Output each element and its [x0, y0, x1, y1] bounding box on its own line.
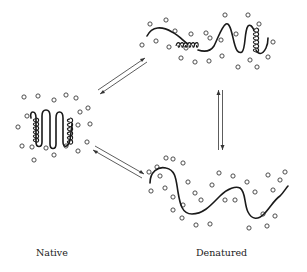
solvent-molecule	[186, 180, 190, 184]
solvent-molecule	[266, 173, 270, 177]
solvent-molecule	[52, 153, 56, 157]
random-coil-state	[147, 156, 288, 230]
denatured-label: Denatured	[196, 247, 247, 258]
solvent-molecule	[171, 157, 175, 161]
solvent-molecule	[199, 198, 203, 202]
equilibrium-arrow-partial-random	[217, 90, 225, 150]
solvent-molecule	[208, 222, 212, 226]
solvent-molecule	[171, 195, 175, 199]
solvent-molecule	[220, 54, 224, 58]
solvent-molecule	[204, 31, 208, 35]
solvent-molecule	[219, 38, 223, 42]
solvent-molecule	[147, 170, 151, 174]
solvent-molecule	[16, 125, 20, 129]
solvent-molecule	[167, 45, 171, 49]
solvent-molecule	[189, 32, 193, 36]
solvent-molecule	[207, 59, 211, 63]
solvent-molecule	[149, 189, 153, 193]
solvent-molecule	[78, 110, 82, 114]
solvent-molecule	[148, 22, 152, 26]
equilibrium-arrow-native-random	[93, 146, 144, 178]
solvent-molecule	[245, 180, 249, 184]
native-state	[16, 93, 92, 162]
solvent-molecule	[163, 186, 167, 190]
solvent-molecule	[234, 32, 238, 36]
solvent-molecule	[273, 214, 277, 218]
solvent-molecule	[231, 174, 235, 178]
native-solvent-molecules	[16, 93, 92, 162]
solvent-molecule	[210, 183, 214, 187]
solvent-molecule	[247, 226, 251, 230]
solvent-molecule	[44, 146, 48, 150]
solvent-molecule	[271, 188, 275, 192]
solvent-molecule	[158, 174, 162, 178]
solvent-molecule	[86, 106, 90, 110]
solvent-molecule	[164, 156, 168, 160]
solvent-molecule	[194, 223, 198, 227]
solvent-molecule	[171, 208, 175, 212]
solvent-molecule	[74, 96, 78, 100]
solvent-molecule	[85, 140, 89, 144]
solvent-molecule	[154, 39, 158, 43]
solvent-molecule	[265, 224, 269, 228]
solvent-molecule	[271, 40, 275, 44]
helix-coil	[253, 28, 258, 52]
solvent-molecule	[36, 94, 40, 98]
solvent-molecule	[217, 171, 221, 175]
solvent-molecule	[266, 55, 270, 59]
solvent-molecule	[76, 149, 80, 153]
solvent-molecule	[180, 216, 184, 220]
solvent-molecule	[255, 65, 259, 69]
solvent-molecule	[253, 190, 257, 194]
bottom-solvent-molecules	[147, 156, 287, 230]
helix-coil	[176, 43, 198, 48]
solvent-molecule	[64, 93, 68, 97]
solvent-molecule	[248, 58, 252, 62]
solvent-molecule	[32, 158, 36, 162]
solvent-molecule	[246, 13, 250, 17]
helix-coil	[33, 118, 38, 142]
solvent-molecule	[181, 161, 185, 165]
solvent-molecule	[25, 114, 29, 118]
solvent-molecule	[193, 191, 197, 195]
native-label: Native	[36, 247, 68, 258]
solvent-molecule	[22, 95, 26, 99]
solvent-molecule	[76, 123, 80, 127]
solvent-molecule	[20, 144, 24, 148]
native-backbone	[31, 110, 72, 149]
solvent-molecule	[223, 198, 227, 202]
helix-coil	[67, 118, 72, 144]
solvent-molecule	[236, 65, 240, 69]
solvent-molecule	[30, 145, 34, 149]
solvent-molecule	[52, 98, 56, 102]
diagram-canvas	[0, 0, 307, 272]
partially-denatured-state	[140, 13, 275, 69]
solvent-molecule	[140, 43, 144, 47]
solvent-molecule	[179, 56, 183, 60]
solvent-molecule	[164, 18, 168, 22]
solvent-molecule	[233, 198, 237, 202]
solvent-molecule	[88, 122, 92, 126]
solvent-molecule	[223, 13, 227, 17]
native-helices	[33, 118, 72, 144]
solvent-molecule	[278, 178, 282, 182]
solvent-molecule	[257, 22, 261, 26]
solvent-molecule	[283, 170, 287, 174]
top-backbone	[147, 24, 268, 54]
solvent-molecule	[193, 60, 197, 64]
equilibrium-arrow-native-partial	[98, 58, 147, 94]
solvent-molecule	[208, 36, 212, 40]
native-chain	[31, 110, 73, 149]
